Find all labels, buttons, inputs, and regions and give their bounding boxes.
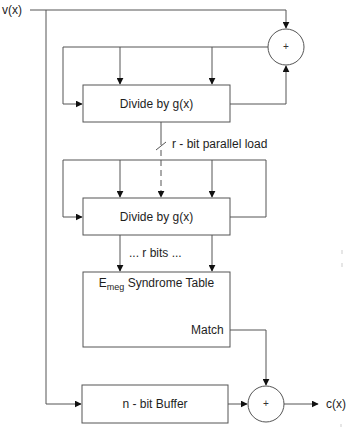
divider-1-label: Divide by g(x) — [83, 97, 230, 111]
syndrome-table-label: Emeg Syndrome Table — [83, 276, 230, 291]
syndrome-table-label-rest: Syndrome Table — [124, 276, 214, 290]
match-label: Match — [191, 323, 224, 337]
top-adder-symbol: + — [281, 42, 291, 52]
bottom-adder-symbol: + — [261, 399, 271, 409]
r-bits-label: ... r bits ... — [129, 246, 182, 260]
syndrome-table-label-sub: meg — [107, 282, 125, 292]
syndrome-table-label-main: E — [99, 276, 107, 290]
input-label: v(x) — [2, 3, 22, 17]
divider-2-label: Divide by g(x) — [83, 210, 230, 224]
output-label: c(x) — [326, 397, 346, 411]
parallel-load-label: r - bit parallel load — [172, 137, 267, 151]
buffer-label: n - bit Buffer — [82, 397, 228, 411]
input-to-top-adder-line — [30, 10, 286, 28]
